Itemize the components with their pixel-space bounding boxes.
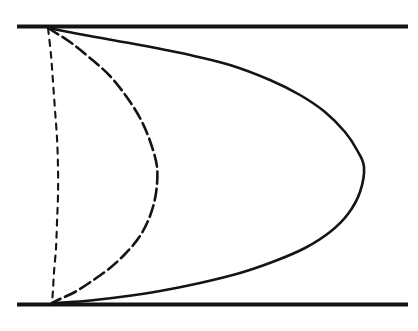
- figure-container: [0, 0, 418, 331]
- velocity-profile-diagram: [0, 0, 418, 331]
